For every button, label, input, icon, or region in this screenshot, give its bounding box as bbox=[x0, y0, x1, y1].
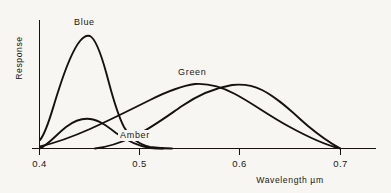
x-tick-label-1: 0.5 bbox=[132, 158, 146, 169]
y-axis-title: Response bbox=[14, 36, 24, 80]
curve-label-blue: Blue bbox=[74, 17, 95, 27]
spectral-response-chart: Blue Green Amber 0.4 0.5 0.6 0.7 Wavelen… bbox=[0, 0, 391, 193]
x-tick-label-2: 0.6 bbox=[232, 158, 246, 169]
x-tick-label-3: 0.7 bbox=[333, 158, 347, 169]
chart-canvas: Blue Green Amber 0.4 0.5 0.6 0.7 Wavelen… bbox=[0, 0, 391, 193]
x-axis-title: Wavelength µm bbox=[256, 175, 323, 185]
curve-label-green: Green bbox=[178, 67, 207, 77]
curve-label-amber: Amber bbox=[120, 130, 150, 140]
x-tick-label-0: 0.4 bbox=[32, 158, 46, 169]
curve-green bbox=[40, 84, 340, 149]
